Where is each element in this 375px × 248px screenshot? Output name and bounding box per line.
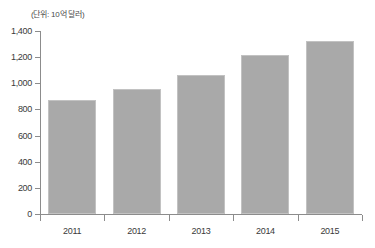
- y-axis-tick-label: 1,200: [11, 52, 32, 62]
- y-axis-tick-label: 400: [18, 157, 32, 167]
- bar: [48, 100, 96, 214]
- x-axis-tick: [298, 215, 299, 221]
- chart-unit-label: (단위: 10억 달러): [31, 8, 85, 19]
- x-axis-tick: [104, 215, 105, 221]
- x-axis-tick: [40, 215, 41, 221]
- y-axis-tick: [35, 136, 40, 137]
- bar: [241, 55, 289, 214]
- x-axis-tick-label: 2011: [63, 226, 81, 236]
- x-axis-tick: [169, 215, 170, 221]
- y-axis-tick: [35, 83, 40, 84]
- y-axis-tick: [35, 162, 40, 163]
- y-axis-tick-label: 800: [18, 104, 32, 114]
- x-axis-line: [40, 214, 362, 215]
- y-axis-tick-label: 600: [18, 131, 32, 141]
- bar: [113, 89, 161, 214]
- y-axis-tick: [35, 31, 40, 32]
- y-axis-tick-label: 1,000: [11, 78, 32, 88]
- x-axis-tick-label: 2013: [192, 226, 211, 236]
- x-axis-tick-label: 2014: [256, 226, 275, 236]
- bar-chart: (단위: 10억 달러) 02004006008001,0001,2001,40…: [0, 0, 375, 248]
- y-axis-tick-label: 200: [18, 183, 32, 193]
- y-axis-tick-label: 1,400: [11, 26, 32, 36]
- bar: [306, 41, 354, 214]
- y-axis-tick: [35, 109, 40, 110]
- y-axis-tick-label: 0: [27, 209, 32, 219]
- y-axis-tick: [35, 57, 40, 58]
- y-axis-tick: [35, 188, 40, 189]
- bar: [177, 75, 225, 214]
- y-axis-line: [40, 31, 41, 214]
- x-axis-tick-label: 2015: [320, 226, 339, 236]
- x-axis-tick-label: 2012: [127, 226, 146, 236]
- x-axis-tick: [362, 215, 363, 221]
- x-axis-tick: [233, 215, 234, 221]
